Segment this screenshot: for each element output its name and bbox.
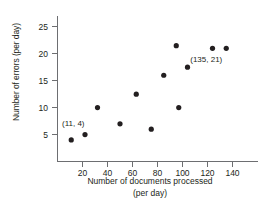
data-point	[95, 105, 100, 110]
data-point	[176, 105, 181, 110]
data-point	[82, 132, 87, 137]
data-point	[69, 137, 74, 142]
y-tick-label: 20	[39, 49, 49, 59]
data-point	[224, 46, 229, 51]
scatter-plot-figure: Number of errors (per day) 510152025 204…	[0, 0, 271, 210]
x-axis-label: Number of documents processed (per day)	[40, 176, 260, 199]
axes-group	[58, 16, 259, 162]
data-point	[161, 73, 166, 78]
data-point	[210, 46, 215, 51]
point-annotation: (11, 4)	[62, 119, 85, 128]
point-annotation: (135, 21)	[190, 55, 222, 64]
x-axis-label-line1: Number of documents processed	[87, 176, 212, 186]
data-point	[149, 127, 154, 132]
data-point	[134, 92, 139, 97]
data-point	[117, 121, 122, 126]
annotations-group: (11, 4)(135, 21)	[62, 55, 223, 128]
y-tick-label: 10	[39, 103, 49, 113]
data-point	[174, 43, 179, 48]
y-tick-label: 25	[39, 22, 49, 32]
y-ticks-group: 510152025	[39, 22, 58, 140]
x-axis-label-line2: (per day)	[40, 188, 260, 200]
data-point	[185, 65, 190, 70]
y-tick-label: 5	[43, 130, 48, 140]
y-tick-label: 15	[39, 76, 49, 86]
